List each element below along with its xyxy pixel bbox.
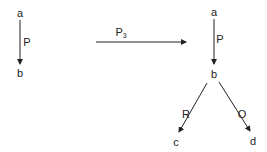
- right-edge-label-o: O: [238, 109, 247, 120]
- transform-label-subscript: 3: [123, 32, 127, 39]
- right-edge-label-p: P: [216, 34, 223, 45]
- right-edge-b-d: [219, 82, 250, 131]
- right-node-c: c: [173, 137, 179, 148]
- right-node-d: d: [250, 136, 256, 147]
- right-node-a: a: [211, 7, 217, 18]
- transform-label: P3: [115, 27, 126, 39]
- left-node-a: a: [17, 8, 23, 19]
- left-edge-label-p: P: [23, 37, 30, 48]
- right-edge-label-r: R: [182, 109, 190, 120]
- left-node-b: b: [17, 68, 23, 79]
- right-node-b: b: [211, 69, 217, 80]
- diagram-canvas: [0, 0, 267, 152]
